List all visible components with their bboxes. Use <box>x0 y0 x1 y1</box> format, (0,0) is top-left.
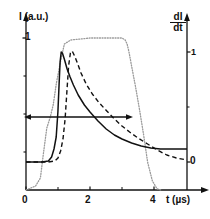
y2-tick-label-1: 1 <box>191 47 196 57</box>
series-dI-dt-dashed <box>26 51 187 162</box>
y-axis-label: I (a.u.) <box>19 11 48 22</box>
x-tick-label-0: 0 <box>22 194 28 205</box>
series-current-pulse-flat-top <box>26 38 161 190</box>
fall-time-arrow <box>78 114 133 119</box>
series-dI-dt-solid <box>26 52 187 162</box>
x-tick-label-4: 4 <box>150 194 156 205</box>
y-tick-label-1: 1 <box>25 31 31 42</box>
derivative-denominator: dt <box>170 23 186 33</box>
x-axis <box>26 187 209 193</box>
secondary-y-axis-label: dI dt <box>170 12 186 33</box>
figure-container: I (a.u.) 1 0 2 4 t (µs) dI dt 1 0 <box>0 0 210 219</box>
x-tick-label-2: 2 <box>85 194 91 205</box>
x-axis-label: t (µs) <box>166 194 190 205</box>
derivative-numerator: dI <box>170 12 186 22</box>
y2-tick-label-0: 0 <box>190 155 196 166</box>
